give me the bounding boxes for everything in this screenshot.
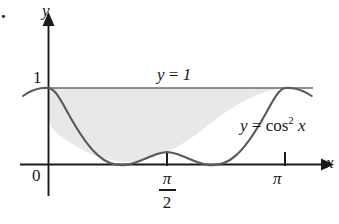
fraction-numerator: π — [152, 170, 182, 188]
origin-label-0: 0 — [32, 167, 41, 184]
curve-eq-cos: cos — [266, 116, 289, 135]
fraction-bar — [159, 189, 176, 191]
line-eq-equals: = — [165, 65, 183, 84]
fraction-denominator: 2 — [152, 193, 182, 211]
line-equation-label: y = 1 — [157, 66, 191, 83]
x-tick-label-pi-over-2: π 2 — [152, 170, 182, 211]
line-eq-value: 1 — [183, 65, 192, 84]
curve-eq-y: y — [240, 116, 248, 135]
curve-equation-label: y = cos2 x — [240, 115, 306, 134]
curve-eq-x: x — [298, 116, 306, 135]
y-axis-label: y — [42, 2, 50, 19]
line-eq-y: y — [157, 65, 165, 84]
calculus-figure: . y x 1 0 y = 1 y = cos2 x π 2 π — [0, 0, 339, 224]
x-axis-label: x — [326, 154, 334, 171]
curve-eq-equals: = — [248, 116, 266, 135]
y-tick-label-1: 1 — [33, 69, 42, 86]
x-tick-label-pi: π — [273, 170, 297, 187]
